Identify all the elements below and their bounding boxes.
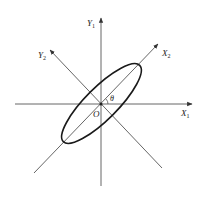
label-theta: θ (110, 94, 114, 103)
y2-axis (50, 50, 162, 168)
label-origin: O (93, 109, 100, 119)
label-y2: Y2 (38, 50, 46, 61)
label-y1: Y1 (87, 18, 95, 29)
label-x2: X2 (161, 48, 171, 59)
label-x1: X1 (180, 108, 190, 119)
origin-point (100, 103, 103, 106)
angle-theta-arc (106, 99, 108, 104)
rotated-axes-ellipse-diagram: Y1 Y2 X2 X1 O θ (0, 0, 201, 197)
